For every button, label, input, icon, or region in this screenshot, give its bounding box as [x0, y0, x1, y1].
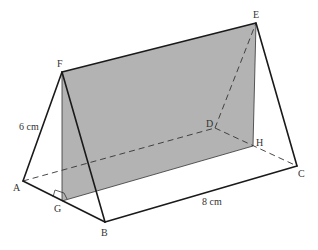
prism-diagram: A B C D E F G H 6 cm 8 cm [0, 0, 318, 250]
label-d: D [206, 118, 213, 129]
label-c: C [298, 168, 305, 179]
measure-bc: 8 cm [202, 196, 222, 207]
label-b: B [101, 227, 108, 238]
label-g: G [54, 203, 61, 214]
label-h: H [256, 137, 263, 148]
label-e: E [253, 9, 259, 20]
measure-af: 6 cm [19, 121, 39, 132]
label-a: A [13, 182, 21, 193]
label-f: F [57, 58, 63, 69]
